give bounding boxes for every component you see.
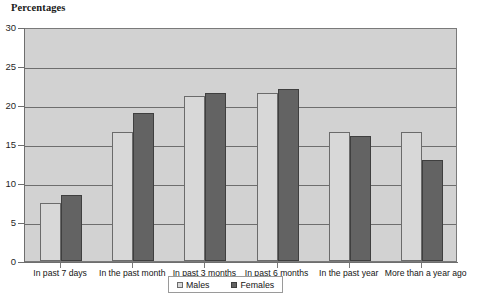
x-axis-tick-label: In the past month [96,268,168,278]
y-axis-tick [18,28,24,29]
legend-item-females: Females [231,280,274,290]
x-axis-tick-label: In past 7 days [24,268,96,278]
x-axis-tick-label: In the past year [313,268,385,278]
y-axis-tick [18,67,24,68]
x-axis-line [24,262,458,263]
x-axis-tick-label: More than a year ago [385,268,457,278]
bar-males-5 [401,132,422,261]
bar-males-3 [257,93,278,261]
bar-females-3 [278,89,299,261]
gridline [25,224,456,225]
y-axis-tick-label: 0 [0,257,16,267]
bar-males-1 [112,132,133,261]
y-axis-tick-label: 20 [0,101,16,111]
gridline [25,107,456,108]
y-axis-tick [18,106,24,107]
y-axis-tick-label: 25 [0,62,16,72]
legend: Males Females [168,276,283,293]
gridline [25,185,456,186]
y-axis-tick-label: 30 [0,23,16,33]
y-axis-tick-label: 10 [0,179,16,189]
y-axis-tick [18,223,24,224]
bar-chart: Percentages 051015202530 In past 7 daysI… [0,0,480,299]
bar-females-4 [350,136,371,261]
bar-females-2 [205,93,226,261]
legend-item-males: Males [177,280,209,290]
page-title: Percentages [11,2,66,13]
y-axis-tick [18,145,24,146]
bar-females-5 [422,160,443,261]
gridline [25,146,456,147]
legend-swatch-females-icon [231,282,237,288]
legend-swatch-males-icon [177,282,183,288]
y-axis-tick [18,184,24,185]
y-axis-tick [18,262,24,263]
bar-males-2 [184,96,205,261]
gridline [25,68,456,69]
legend-label-males: Males [186,280,209,290]
bar-females-0 [61,195,82,261]
plot-area [24,28,457,262]
y-axis-tick-label: 15 [0,140,16,150]
legend-label-females: Females [240,280,274,290]
bar-females-1 [133,113,154,261]
bar-males-4 [329,132,350,261]
y-axis-tick-label: 5 [0,218,16,228]
bar-males-0 [40,203,61,262]
y-axis-line [24,28,25,263]
